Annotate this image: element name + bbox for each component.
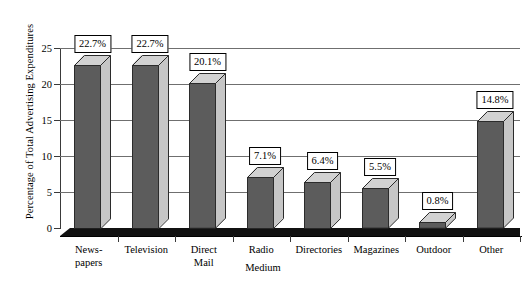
bar-outline — [74, 55, 111, 229]
data-label: 14.8% — [476, 91, 513, 109]
data-label: 5.5% — [364, 158, 396, 176]
gridline — [60, 48, 520, 49]
category-label: Radio — [249, 244, 274, 257]
y-tick — [54, 84, 60, 85]
data-label: 20.1% — [189, 53, 226, 71]
y-tick-label: 15 — [26, 115, 52, 126]
y-tick-label: 20 — [26, 79, 52, 90]
chart-floor — [60, 228, 520, 236]
category-label: Television — [124, 244, 168, 257]
data-label: 7.1% — [249, 147, 281, 165]
bar-chart: Percentage of Total Advertising Expendit… — [0, 0, 526, 282]
bar — [132, 55, 159, 228]
y-tick — [54, 48, 60, 49]
x-tick — [233, 236, 234, 242]
category-label: Magazines — [354, 244, 399, 257]
bar-outline — [304, 172, 341, 229]
gridline — [60, 84, 520, 85]
x-tick — [348, 236, 349, 242]
bar-outline — [477, 111, 514, 229]
y-tick — [54, 156, 60, 157]
y-tick-label: 25 — [26, 43, 52, 54]
bar — [247, 167, 274, 228]
y-axis-line — [60, 48, 61, 229]
bar-outline — [247, 167, 284, 229]
category-label: Other — [479, 244, 503, 257]
category-label: Directories — [295, 244, 342, 257]
bar — [477, 111, 504, 228]
bar — [189, 73, 216, 228]
data-label: 22.7% — [74, 35, 111, 53]
bar-outline — [419, 212, 456, 229]
bar-outline — [362, 178, 399, 229]
x-tick — [405, 236, 406, 242]
gridline — [60, 156, 520, 157]
data-label: 6.4% — [307, 152, 339, 170]
y-tick — [54, 120, 60, 121]
bar-outline — [132, 55, 169, 229]
x-axis-line — [60, 236, 522, 237]
x-axis-title: Medium — [0, 262, 526, 273]
x-tick — [175, 236, 176, 242]
x-tick — [520, 236, 521, 242]
x-tick — [290, 236, 291, 242]
gridline — [60, 120, 520, 121]
bar-outline — [189, 73, 226, 229]
category-label: Outdoor — [416, 244, 451, 257]
y-tick-label: 0 — [26, 223, 52, 234]
x-tick — [463, 236, 464, 242]
y-tick-label: 10 — [26, 151, 52, 162]
plot-area: 0510152025 22.7%22.7%20.1%7.1%6.4%5.5%0.… — [60, 48, 520, 228]
data-label: 22.7% — [131, 35, 168, 53]
y-tick-label: 5 — [26, 187, 52, 198]
y-tick — [54, 192, 60, 193]
bar — [304, 172, 331, 228]
x-tick — [118, 236, 119, 242]
data-label: 0.8% — [422, 192, 454, 210]
bar — [419, 212, 446, 228]
floor-band — [60, 228, 520, 236]
bar — [362, 178, 389, 228]
bar — [74, 55, 101, 228]
